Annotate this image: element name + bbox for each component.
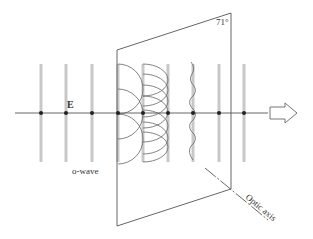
angle-label: 71°: [216, 17, 229, 27]
o-wave-huygens-diagram: E o-wave 71° Optic axis: [0, 0, 313, 239]
propagation-arrow-icon: [270, 103, 297, 123]
o-wave-label: o-wave: [72, 166, 99, 176]
e-field-label: E: [67, 99, 74, 110]
optic-axis-label: Optic axis: [244, 192, 279, 224]
diagram: E o-wave 71° Optic axis: [0, 0, 313, 239]
